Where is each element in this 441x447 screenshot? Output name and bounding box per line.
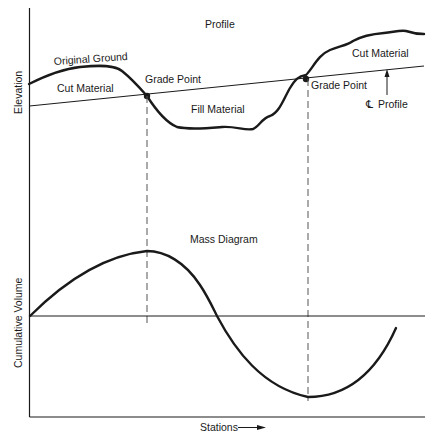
mass-diagram-curve: [30, 251, 396, 397]
elevation-axis-label: Elevation: [12, 71, 24, 114]
original-ground-label: Original Ground: [53, 50, 128, 67]
grade-point-left-label: Grade Point: [145, 73, 201, 85]
centerline-profile-label: Profile: [378, 98, 408, 110]
grade-point-right-label: Grade Point: [311, 79, 367, 91]
fill-material-label: Fill Material: [191, 103, 245, 115]
cut-material-left-label: Cut Material: [57, 82, 114, 94]
cut-material-right-label: Cut Material: [352, 47, 409, 59]
cumulative-volume-axis-label: Cumulative Volume: [12, 277, 24, 368]
profile-title: Profile: [205, 18, 235, 30]
earthwork-diagram: Profile Original Ground Cut Material Gra…: [0, 0, 441, 447]
centerline-symbol: ℄: [365, 98, 373, 110]
stations-axis-label: Stations: [200, 421, 238, 433]
mass-diagram-title: Mass Diagram: [190, 233, 258, 245]
stations-arrow-icon: [257, 425, 266, 430]
